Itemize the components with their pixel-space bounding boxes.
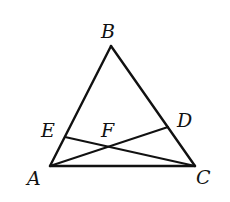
triangle-diagram: B A C D E F	[0, 0, 230, 202]
label-f: F	[100, 119, 115, 141]
label-c: C	[196, 166, 211, 188]
label-a: A	[25, 167, 41, 189]
label-d: D	[176, 109, 192, 131]
label-b: B	[100, 20, 115, 42]
segment-ce	[65, 137, 195, 166]
label-e: E	[40, 119, 55, 141]
segment-bc	[111, 46, 195, 166]
